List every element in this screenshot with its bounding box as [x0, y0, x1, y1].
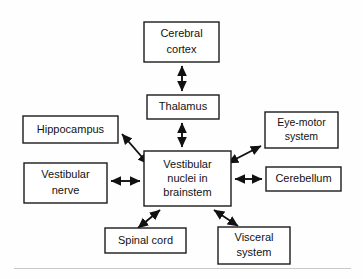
- edge-vestibular-nuclei-visceral-system: [214, 210, 238, 226]
- node-label-vestibular-nuclei-line3: brainstem: [163, 186, 211, 198]
- node-label-visceral-system-line1: Visceral: [235, 231, 274, 243]
- node-label-vestibular-nerve-line1: Vestibular: [41, 168, 90, 180]
- node-label-eye-motor-system-line2: system: [285, 130, 319, 142]
- diagram-svg: Cerebral cortex Thalamus Vestibular nucl…: [0, 0, 363, 279]
- diagram-canvas: Cerebral cortex Thalamus Vestibular nucl…: [0, 0, 363, 279]
- node-eye-motor-system[interactable]: Eye-motor system: [265, 112, 338, 148]
- node-label-eye-motor-system-line1: Eye-motor: [277, 116, 326, 128]
- node-label-thalamus: Thalamus: [159, 100, 208, 112]
- node-vestibular-nerve[interactable]: Vestibular nerve: [24, 163, 107, 203]
- node-label-vestibular-nerve-line2: nerve: [52, 184, 80, 196]
- node-label-hippocampus: Hippocampus: [37, 123, 105, 135]
- node-label-vestibular-nuclei-line2: nuclei in: [167, 172, 207, 184]
- node-label-cerebral-cortex-line2: cortex: [167, 43, 197, 55]
- node-label-cerebellum: Cerebellum: [275, 172, 331, 184]
- node-visceral-system[interactable]: Visceral system: [218, 227, 290, 264]
- node-label-visceral-system-line2: system: [237, 246, 272, 258]
- node-label-vestibular-nuclei-line1: Vestibular: [163, 158, 212, 170]
- edge-vestibular-nuclei-spinal-cord: [138, 210, 160, 228]
- node-label-cerebral-cortex-line1: Cerebral: [160, 27, 202, 39]
- node-cerebellum[interactable]: Cerebellum: [266, 167, 341, 191]
- node-thalamus[interactable]: Thalamus: [147, 95, 219, 119]
- node-cerebral-cortex[interactable]: Cerebral cortex: [144, 22, 219, 62]
- node-spinal-cord[interactable]: Spinal cord: [105, 228, 186, 253]
- node-vestibular-nuclei[interactable]: Vestibular nuclei in brainstem: [144, 151, 231, 206]
- edge-vestibular-nuclei-eye-motor-system: [228, 146, 261, 163]
- node-label-spinal-cord: Spinal cord: [118, 234, 173, 246]
- node-hippocampus[interactable]: Hippocampus: [23, 116, 118, 143]
